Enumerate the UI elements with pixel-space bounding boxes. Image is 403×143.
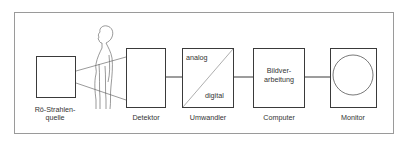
detector-label: Detektor — [116, 114, 176, 122]
xray-beam-lower — [76, 83, 126, 100]
converter-digital-label: digital — [205, 92, 224, 100]
computer-label: Computer — [249, 114, 309, 122]
monitor-label: Monitor — [323, 114, 383, 122]
computer-inner-line1: Bildver- — [253, 67, 305, 75]
monitor-screen-icon — [333, 55, 373, 95]
detector-box — [127, 49, 166, 108]
patient-figure-icon — [95, 26, 113, 109]
computer-inner-line2: arbeitung — [253, 76, 305, 84]
xray-beam-upper — [76, 57, 126, 71]
source-label-line2: quelle — [22, 114, 88, 122]
monitor-box — [331, 49, 377, 108]
xray-source-box — [37, 57, 76, 98]
converter-label: Umwandler — [178, 114, 238, 122]
converter-analog-label: analog — [186, 54, 208, 62]
